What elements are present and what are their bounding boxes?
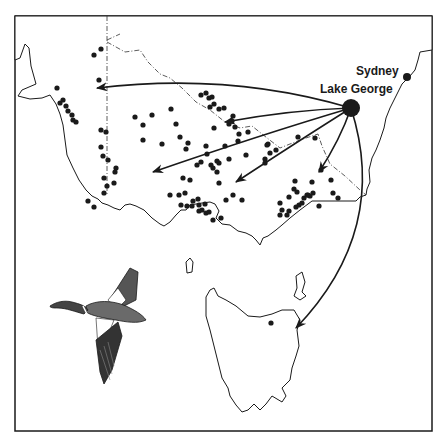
recovery-point (211, 125, 216, 130)
recovery-point (264, 142, 269, 147)
recovery-point (168, 106, 173, 111)
recovery-point (335, 195, 340, 200)
king-island (186, 258, 193, 273)
recovery-point (214, 169, 219, 174)
recovery-point (286, 194, 291, 199)
recovery-point (239, 197, 244, 202)
recovery-point (111, 180, 116, 185)
recovery-point (299, 200, 304, 205)
recovery-point (196, 208, 201, 213)
sydney-marker (403, 73, 411, 81)
recovery-point (268, 320, 273, 325)
recovery-point (295, 134, 300, 139)
recovery-point (216, 106, 221, 111)
recovery-point (216, 160, 221, 165)
recovery-point (294, 189, 299, 194)
recovery-point (65, 108, 70, 113)
recovery-point (178, 202, 183, 207)
recovery-point (203, 143, 208, 148)
recovery-point (63, 103, 68, 108)
recovery-point (210, 217, 215, 222)
recovery-point (292, 178, 297, 183)
recovery-point (101, 175, 106, 180)
recovery-point (223, 197, 228, 202)
recovery-point (198, 159, 203, 164)
recovery-point (176, 192, 181, 197)
recovery-point (182, 190, 187, 195)
recovery-point (209, 94, 214, 99)
recovery-point (105, 157, 110, 162)
recovery-point (236, 131, 241, 136)
recovery-point (100, 153, 105, 158)
recovery-point (230, 192, 235, 197)
recovery-point (277, 200, 282, 205)
recovery-point (69, 112, 74, 117)
recovery-point (286, 208, 291, 213)
recovery-point (207, 104, 212, 109)
recovery-point (104, 183, 109, 188)
recovery-point (277, 212, 282, 217)
recovery-point (184, 203, 189, 208)
recovery-point (187, 177, 192, 182)
recovery-point (210, 165, 215, 170)
recovery-point (190, 198, 195, 203)
recovery-point (180, 175, 185, 180)
recovery-point (330, 190, 335, 195)
recovery-point (245, 129, 250, 134)
recovery-point (177, 134, 182, 139)
recovery-point (310, 190, 315, 195)
recovery-point (309, 179, 314, 184)
recovery-point (149, 112, 154, 117)
recovery-point (101, 190, 106, 195)
recovery-point (202, 201, 207, 206)
recovery-point (159, 141, 164, 146)
recovery-point (267, 150, 272, 155)
recovery-point (243, 152, 248, 157)
recovery-point (221, 105, 226, 110)
recovery-point (316, 203, 321, 208)
recovery-point (98, 144, 103, 149)
recovery-point (54, 85, 59, 90)
recovery-point (91, 52, 96, 57)
recovery-point (198, 92, 203, 97)
recovery-point (279, 207, 284, 212)
recovery-point (98, 127, 103, 132)
recovery-point (328, 177, 333, 182)
lake-george-marker (342, 99, 360, 117)
recovery-point (96, 77, 101, 82)
recovery-point (195, 196, 200, 201)
recovery-point (85, 198, 90, 203)
recovery-point (98, 46, 103, 51)
recovery-point (189, 203, 194, 208)
recovery-point (60, 97, 65, 102)
recovery-point (167, 192, 172, 197)
recovery-point (216, 180, 221, 185)
recovery-point (140, 137, 145, 142)
recovery-point (312, 135, 317, 140)
recovery-point (103, 129, 108, 134)
recovery-point (196, 202, 201, 207)
recovery-point (73, 119, 78, 124)
recovery-point (305, 192, 310, 197)
recovery-point (203, 90, 208, 95)
recovery-point (273, 147, 278, 152)
recovery-point (132, 114, 137, 119)
recovery-point (183, 146, 188, 151)
recovery-point (112, 169, 117, 174)
recovery-point (185, 140, 190, 145)
sydney-label: Sydney (356, 64, 399, 78)
recovery-point (140, 122, 145, 127)
lake-george-label: Lake George (320, 82, 393, 96)
recovery-point (173, 121, 178, 126)
recovery-point (230, 113, 235, 118)
recovery-point (91, 204, 96, 209)
recovery-point (218, 215, 223, 220)
recovery-point (226, 156, 231, 161)
recovery-point (206, 209, 211, 214)
recovery-point (232, 124, 237, 129)
